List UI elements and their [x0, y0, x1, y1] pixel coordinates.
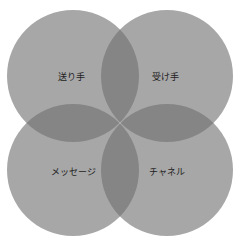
label-receiver: 受け手 — [152, 71, 179, 82]
label-message: メッセージ — [51, 167, 96, 177]
venn-diagram: 送り手 受け手 メッセージ チャネル — [0, 0, 244, 243]
label-sender: 送り手 — [58, 71, 85, 82]
label-channel: チャネル — [149, 167, 185, 177]
